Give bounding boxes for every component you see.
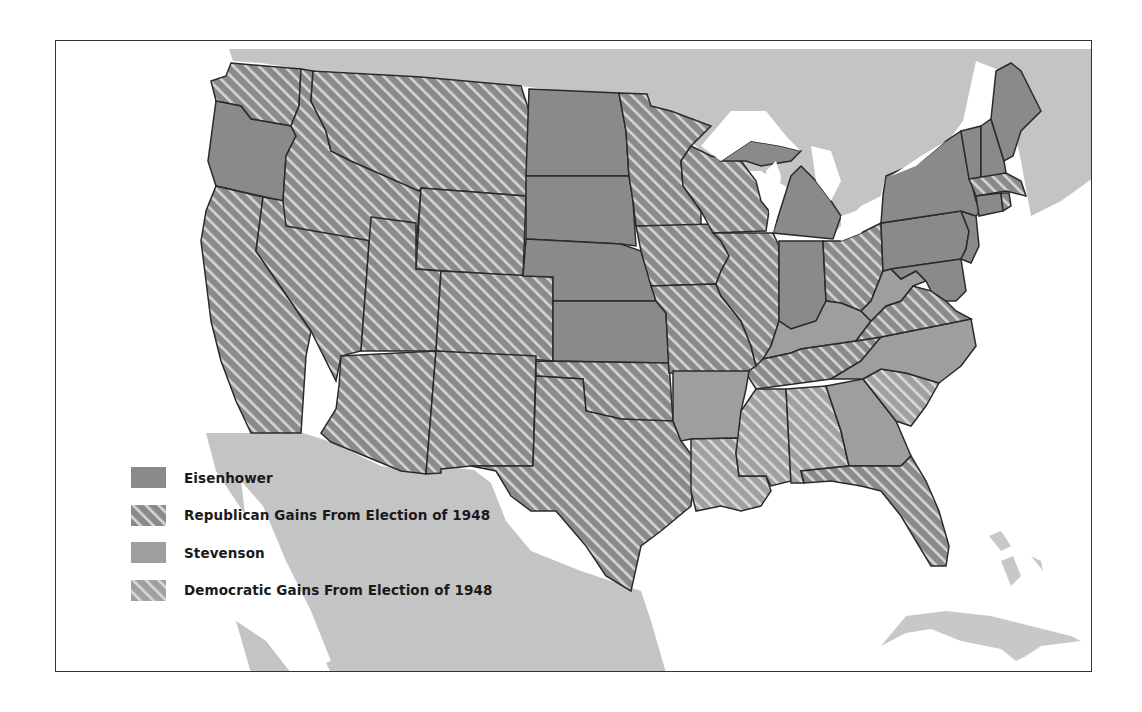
- democratic-gains-swatch-icon: [131, 580, 166, 601]
- stevenson-swatch-icon: [131, 542, 166, 563]
- map-frame: Eisenhower Republican Gains From Electio…: [55, 40, 1092, 672]
- state-mississippi: [736, 389, 791, 486]
- legend-label: Eisenhower: [184, 470, 273, 486]
- state-new-mexico: [426, 351, 536, 474]
- state-kansas: [553, 301, 669, 363]
- eisenhower-swatch-icon: [131, 467, 166, 488]
- state-connecticut: [976, 193, 1003, 216]
- state-colorado: [436, 271, 553, 361]
- state-rhode-island: [1001, 193, 1011, 211]
- legend-label: Stevenson: [184, 545, 265, 561]
- legend-item-stevenson: Stevenson: [131, 534, 492, 572]
- state-florida: [801, 456, 949, 566]
- legend-label: Republican Gains From Election of 1948: [184, 507, 490, 523]
- state-wyoming: [416, 188, 526, 276]
- state-arkansas: [673, 371, 749, 441]
- state-north-dakota: [526, 89, 629, 176]
- republican-gains-swatch-icon: [131, 505, 166, 526]
- map-legend: Eisenhower Republican Gains From Electio…: [131, 459, 492, 609]
- cuba: [881, 611, 1081, 661]
- state-south-dakota: [526, 176, 636, 246]
- legend-item-democratic-gains: Democratic Gains From Election of 1948: [131, 572, 492, 610]
- bahamas: [989, 531, 1043, 586]
- legend-item-republican-gains: Republican Gains From Election of 1948: [131, 497, 492, 535]
- legend-label: Democratic Gains From Election of 1948: [184, 582, 492, 598]
- legend-item-eisenhower: Eisenhower: [131, 459, 492, 497]
